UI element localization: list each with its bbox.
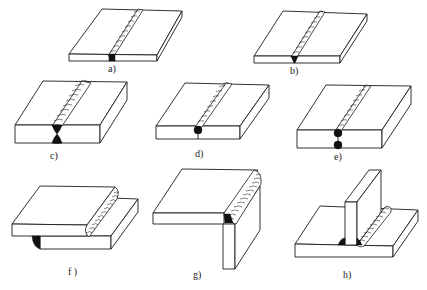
panel-a: a) [69, 9, 182, 75]
panel-label-g: g) [193, 269, 201, 281]
panel-h: h) [295, 170, 418, 281]
panel-c: c) [15, 80, 127, 162]
panel-e: e) [297, 85, 411, 163]
weld-root-bottom [334, 141, 342, 149]
panel-label-e: e) [334, 151, 342, 163]
panel-label-a: a) [108, 63, 116, 75]
panel-label-d: d) [195, 148, 203, 160]
weld-root [194, 126, 202, 134]
weld-root-top [334, 129, 342, 137]
panel-b: b) [254, 11, 367, 77]
panel-f: f ) [12, 186, 138, 278]
weld-joint-diagram: a) b) c) [0, 0, 427, 290]
panel-label-c: c) [50, 150, 58, 162]
panel-g: g) [153, 169, 261, 281]
panel-label-h: h) [343, 269, 351, 281]
weld-underside [32, 236, 40, 249]
panel-label-b: b) [290, 65, 298, 77]
panel-d: d) [156, 83, 269, 160]
panel-label-f: f ) [68, 266, 77, 278]
weld-root [109, 54, 115, 61]
